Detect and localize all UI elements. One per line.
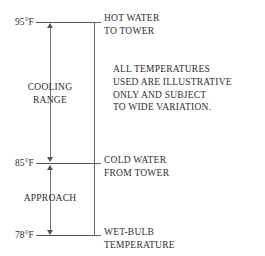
cooling-tower-diagram: 95°F 85°F 78°F COOLING RANGE APPROACH HO… [0, 0, 265, 256]
right-label-wet-bulb-line2: TEMPERATURE [104, 239, 175, 251]
span-label-cooling-range-line1: COOLING [14, 81, 86, 93]
temperature-label-wet-bulb: 78°F [0, 229, 34, 241]
span-label-approach: APPROACH [8, 192, 92, 204]
level-rule-hot-water [36, 22, 94, 23]
temperature-label-hot-water: 95°F [0, 16, 34, 28]
illustrative-note: ALL TEMPERATURES USED ARE ILLUSTRATIVE O… [113, 63, 232, 114]
approach-arrow-head-bottom [47, 230, 53, 235]
right-bracket-tick-top [94, 22, 101, 23]
right-label-cold-water-line2: FROM TOWER [104, 167, 169, 179]
illustrative-note-line-1: ALL TEMPERATURES [113, 63, 232, 76]
right-label-wet-bulb-line1: WET-BULB [104, 226, 154, 238]
right-label-hot-water-line2: TO TOWER [104, 25, 154, 37]
right-label-cold-water-line1: COLD WATER [104, 154, 166, 166]
illustrative-note-line-4: TO WIDE VARIATION. [113, 101, 232, 114]
illustrative-note-line-3: ONLY AND SUBJECT [113, 89, 232, 102]
cooling-range-arrow-head-bottom [47, 157, 53, 162]
right-label-hot-water-line1: HOT WATER [104, 12, 159, 24]
right-bracket-tick-bottom [94, 235, 101, 236]
level-rule-wet-bulb [36, 235, 94, 236]
level-rule-cold-water [36, 163, 94, 164]
approach-arrow-head-top [47, 165, 53, 170]
illustrative-note-line-2: USED ARE ILLUSTRATIVE [113, 76, 232, 89]
temperature-label-cold-water: 85°F [0, 157, 34, 169]
span-label-cooling-range-line2: RANGE [14, 94, 86, 106]
right-bracket-stem [94, 22, 95, 235]
cooling-range-arrow-head-top [47, 23, 53, 28]
right-bracket-tick-middle [94, 163, 101, 164]
